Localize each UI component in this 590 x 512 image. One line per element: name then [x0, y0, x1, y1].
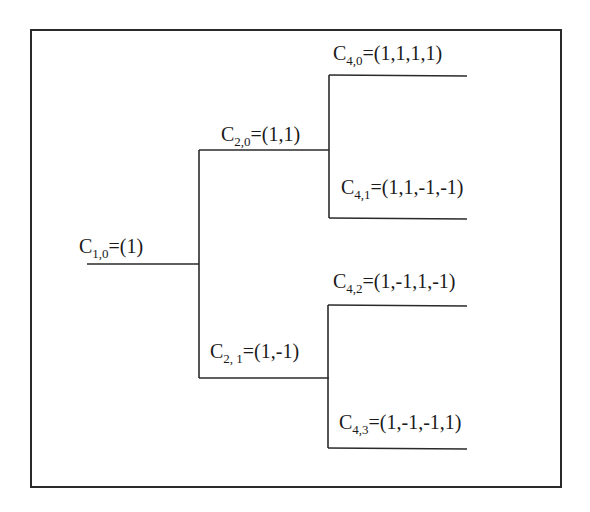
code-value: =(1) [109, 235, 144, 257]
node-label-c40: C4,0=(1,1,1,1) [333, 43, 442, 63]
code-index: 2, 1 [223, 351, 243, 366]
code-name: C [210, 340, 223, 362]
code-name: C [221, 123, 234, 145]
code-index: 4,1 [354, 187, 370, 202]
node-label-c20: C2,0=(1,1) [221, 124, 300, 144]
edge-c40 [329, 75, 467, 76]
code-value: =(1,-1,1,-1) [363, 270, 456, 292]
code-index: 2,0 [234, 134, 250, 149]
code-name: C [333, 270, 346, 292]
node-label-c43: C4,3=(1,-1,-1,1) [339, 412, 462, 432]
code-index: 4,0 [346, 53, 362, 68]
edge-c41 [329, 218, 467, 219]
code-value: =(1,1,1,1) [363, 42, 443, 64]
code-name: C [79, 235, 92, 257]
node-label-c21: C2, 1=(1,-1) [210, 341, 299, 361]
code-value: =(1,-1) [243, 340, 299, 362]
node-label-c42: C4,2=(1,-1,1,-1) [333, 271, 456, 291]
code-index: 1,0 [92, 246, 108, 261]
code-name: C [341, 176, 354, 198]
code-name: C [339, 411, 352, 433]
edge-c42 [328, 305, 467, 306]
node-label-c10: C1,0=(1) [79, 236, 143, 256]
node-label-c41: C4,1=(1,1,-1,-1) [341, 177, 464, 197]
code-value: =(1,1,-1,-1) [371, 176, 464, 198]
code-value: =(1,1) [251, 123, 301, 145]
outer-frame [31, 30, 561, 487]
code-index: 4,3 [352, 422, 368, 437]
code-name: C [333, 42, 346, 64]
code-index: 4,2 [346, 281, 362, 296]
code-value: =(1,-1,-1,1) [369, 411, 462, 433]
edge-c43 [328, 448, 467, 449]
